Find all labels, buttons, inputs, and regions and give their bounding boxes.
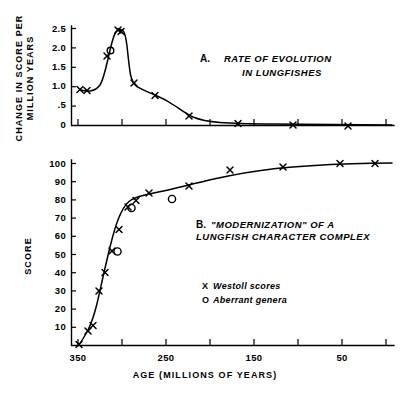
panel-b: SCORE 100 90 80 70 60 50 40 30 20 10 [23, 158, 394, 380]
panel-b-ytick-40: 40 [55, 267, 66, 278]
marker-x [116, 227, 122, 233]
marker-x [131, 80, 137, 86]
panel-a: CHANGE IN SCORE PER MILLION YEARS 2.5 2.… [14, 15, 394, 142]
legend-label-aberrant: Aberrant genera [212, 295, 287, 305]
marker-x [227, 167, 233, 173]
panel-b-axes [72, 160, 395, 346]
legend-symbol-westoll: X [202, 281, 208, 291]
panel-a-ytick-0: 0 [60, 119, 66, 130]
panel-b-ytick-80: 80 [55, 194, 66, 205]
panel-b-y-axis-label: SCORE [23, 237, 33, 275]
panel-b-ytick-90: 90 [55, 176, 66, 187]
legend-label-westoll: Westoll scores [213, 281, 281, 291]
panel-a-y-axis-label-line1: CHANGE IN SCORE PER [14, 15, 24, 142]
panel-b-xtick-250: 250 [158, 352, 175, 363]
panel-b-ytick-10: 10 [55, 321, 66, 332]
figure-svg: CHANGE IN SCORE PER MILLION YEARS 2.5 2.… [0, 0, 404, 393]
panel-a-letter: A. [200, 53, 210, 64]
panel-a-ytick-2.0: 2.0 [52, 42, 66, 53]
marker-x [77, 87, 83, 93]
panel-b-xtick-150: 150 [246, 352, 263, 363]
marker-x [90, 323, 96, 329]
panel-b-westoll-markers [76, 161, 378, 348]
panel-a-y-axis-label-line2: MILLION YEARS [25, 36, 35, 121]
legend-symbol-aberrant: O [202, 295, 209, 305]
marker-o [114, 248, 121, 255]
panel-b-xtick-50: 50 [336, 352, 347, 363]
panel-b-xtick-350: 350 [70, 352, 87, 363]
panel-a-curve [81, 30, 393, 125]
lungfish-evolution-figure: CHANGE IN SCORE PER MILLION YEARS 2.5 2.… [0, 0, 404, 393]
panel-a-title-line1: RATE OF EVOLUTION [224, 53, 332, 64]
panel-b-title-line1: "MODERNIZATION" OF A [211, 219, 335, 230]
panel-b-ytick-60: 60 [55, 230, 66, 241]
panel-b-title-line2: LUNGFISH CHARACTER COMPLEX [196, 231, 370, 242]
panel-a-ytick-1.5: 1.5 [52, 61, 67, 72]
panel-a-ytick-1.0: 1.0 [52, 80, 66, 91]
panel-b-ytick-100: 100 [49, 158, 66, 169]
panel-a-title-line2: IN LUNGFISHES [242, 67, 322, 78]
panel-a-ytick-0.5: .5 [57, 99, 66, 110]
panel-b-ytick-70: 70 [55, 212, 66, 223]
panel-b-legend: X Westoll scores O Aberrant genera [202, 281, 287, 305]
panel-b-ytick-50: 50 [55, 249, 66, 260]
panel-b-curve [79, 163, 392, 345]
panel-b-x-axis-label: AGE (MILLIONS OF YEARS) [133, 370, 278, 380]
marker-x [76, 342, 82, 348]
panel-b-ytick-20: 20 [55, 303, 66, 314]
panel-b-aberrant-markers [114, 195, 176, 255]
panel-a-axes [72, 26, 395, 126]
panel-b-x-ticks [78, 339, 386, 346]
panel-b-ytick-30: 30 [55, 285, 66, 296]
panel-a-westoll-markers [77, 27, 351, 129]
panel-a-ytick-2.5: 2.5 [52, 23, 67, 34]
panel-b-letter: B. [196, 219, 206, 230]
marker-o [168, 195, 175, 202]
